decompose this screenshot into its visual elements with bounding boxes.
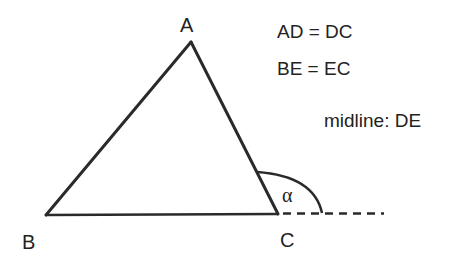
side-ac	[191, 42, 278, 214]
vertex-label-a: A	[180, 14, 194, 36]
angle-alpha-label: α	[282, 184, 293, 206]
side-bc	[46, 214, 278, 215]
side-ab	[46, 42, 191, 215]
vertex-label-c: C	[280, 229, 294, 251]
note-midline-de: midline: DE	[324, 110, 421, 131]
vertex-label-b: B	[22, 231, 35, 253]
triangle-diagram: A B C α AD = DC BE = EC midline: DE	[0, 0, 460, 263]
note-be-equals-ec: BE = EC	[277, 58, 350, 79]
note-ad-equals-dc: AD = DC	[277, 21, 353, 42]
